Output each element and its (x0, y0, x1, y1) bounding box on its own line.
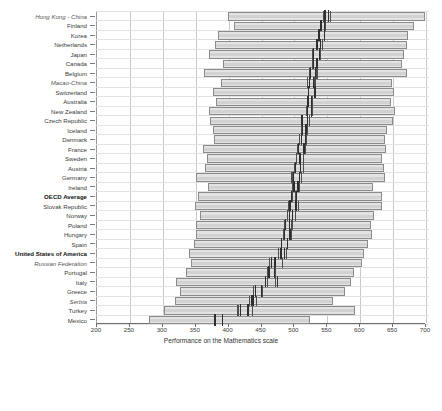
y-axis-tick (90, 92, 95, 93)
y-axis-tick (90, 281, 95, 282)
x-axis-tick-label: 300 (157, 326, 167, 333)
y-axis-tick (90, 205, 95, 206)
y-axis-tick (90, 54, 95, 55)
percentile-bar (189, 249, 365, 257)
y-axis-tick (90, 130, 95, 131)
bar-inner-band (190, 252, 364, 255)
bar-inner-band (177, 281, 350, 284)
y-axis-tick (90, 149, 95, 150)
percentile-bar (213, 88, 394, 96)
x-axis-tick-label: 600 (354, 326, 364, 333)
bar-inner-band (150, 319, 309, 322)
bar-inner-band (176, 300, 332, 303)
bar-inner-band (210, 53, 403, 56)
x-axis-title: Performance on the Mathematics scale (0, 337, 442, 344)
chart-root: Hong Kong - ChinaFinlandKoreaNetherlands… (0, 0, 442, 411)
x-axis-tick-label: 200 (91, 326, 101, 333)
y-axis-tick (90, 291, 95, 292)
y-axis-tick (90, 120, 95, 121)
y-axis-tick (90, 234, 95, 235)
y-axis-label: Mexico (68, 315, 87, 326)
y-axis-tick (90, 168, 95, 169)
bar-inner-band (187, 271, 353, 274)
y-axis-tick (90, 196, 95, 197)
y-axis-tick (90, 82, 95, 83)
percentile-bar (186, 268, 354, 276)
percentile-bar (204, 69, 407, 77)
bar-inner-band (205, 72, 406, 75)
x-axis-tick-label: 450 (255, 326, 265, 333)
percentile-bar (149, 316, 310, 324)
y-axis-tick (90, 262, 95, 263)
y-axis-tick (90, 16, 95, 17)
bar-rows (96, 11, 425, 324)
percentile-bar (164, 306, 355, 314)
bar-inner-band (165, 309, 354, 312)
percentile-bar (176, 278, 351, 286)
bar-inner-band (192, 262, 361, 265)
bar-inner-band (209, 186, 372, 189)
y-axis-tick (90, 300, 95, 301)
percentile-bar (191, 259, 362, 267)
chart-key: 95% confidence limits of the mean Countr… (0, 352, 442, 411)
y-axis-tick (90, 44, 95, 45)
percentile-bar (218, 31, 408, 39)
y-axis-tick (90, 310, 95, 311)
y-axis-tick (90, 139, 95, 140)
y-axis-tick (90, 215, 95, 216)
x-axis-tick-label: 500 (288, 326, 298, 333)
bar-inner-band (219, 34, 407, 37)
y-axis-tick (90, 186, 95, 187)
x-axis-tick-label: 400 (222, 326, 232, 333)
bar-inner-band (210, 110, 394, 113)
percentile-bar (228, 12, 425, 20)
y-axis-tick (90, 253, 95, 254)
y-axis-tick (90, 111, 95, 112)
x-axis-tick-label: 700 (420, 326, 430, 333)
y-axis-tick (90, 272, 95, 273)
y-axis-tick (90, 101, 95, 102)
percentile-bar (175, 297, 333, 305)
male-mean-tick (222, 314, 223, 326)
y-axis-tick (90, 319, 95, 320)
x-axis-tick-label: 550 (321, 326, 331, 333)
bar-inner-band (229, 15, 424, 18)
x-axis-tick-label: 250 (124, 326, 134, 333)
y-axis-tick (90, 224, 95, 225)
y-axis-tick (90, 35, 95, 36)
y-axis-tick (90, 63, 95, 64)
y-axis-tick (90, 25, 95, 26)
bar-inner-band (208, 158, 381, 161)
percentile-bar (209, 50, 404, 58)
percentile-bar (203, 145, 385, 153)
y-axis-labels: Hong Kong - ChinaFinlandKoreaNetherlands… (0, 11, 94, 324)
female-mean-tick (214, 314, 215, 326)
percentile-bar (215, 41, 406, 49)
percentile-bar (216, 98, 392, 106)
y-axis-tick (90, 158, 95, 159)
x-axis-tick-label: 650 (387, 326, 397, 333)
bar-inner-band (214, 91, 393, 94)
y-axis-tick (90, 243, 95, 244)
y-axis-tick (90, 73, 95, 74)
bar-inner-band (216, 44, 405, 47)
bar-inner-band (217, 101, 391, 104)
x-axis-tick-label: 350 (190, 326, 200, 333)
y-axis-tick (90, 177, 95, 178)
bar-inner-band (204, 148, 384, 151)
